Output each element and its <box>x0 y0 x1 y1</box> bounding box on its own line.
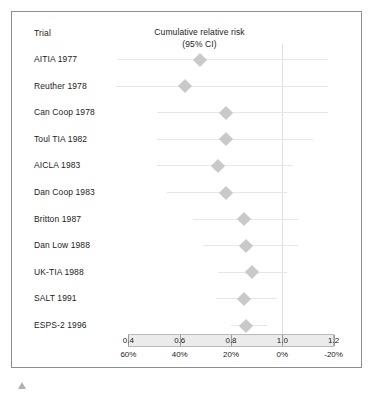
trial-label: Reuther 1978 <box>34 81 87 91</box>
x-axis-tick-label: 0.6 <box>174 336 185 345</box>
trial-label: Dan Low 1988 <box>34 240 90 250</box>
x-axis-tick-label: 0.8 <box>225 336 236 345</box>
point-estimate-marker <box>193 52 207 66</box>
plot-title-line1: Cumulative relative risk <box>107 27 292 39</box>
trial-label: Can Coop 1978 <box>34 107 95 117</box>
point-estimate-marker <box>239 318 253 332</box>
triangle-up-icon <box>18 382 26 389</box>
x-axis-tick-label: 1.2 <box>328 336 339 345</box>
plot-title: Cumulative relative risk (95% CI) <box>107 27 292 50</box>
point-estimate-marker <box>219 106 233 120</box>
x-axis-tick-label: 1.0 <box>277 336 288 345</box>
trial-label: SALT 1991 <box>34 293 77 303</box>
column-header-trial: Trial <box>34 28 51 38</box>
risk-reduction-tick-label: 40% <box>172 350 188 359</box>
trial-label: Toul TIA 1982 <box>34 134 87 144</box>
point-estimate-marker <box>239 239 253 253</box>
trial-label: AITIA 1977 <box>34 54 77 64</box>
trial-label: AICLA 1983 <box>34 160 80 170</box>
risk-reduction-tick-label: 20% <box>223 350 239 359</box>
confidence-interval-line <box>157 139 313 140</box>
reference-line <box>282 44 283 334</box>
trial-label: Britton 1987 <box>34 214 81 224</box>
point-estimate-marker <box>237 292 251 306</box>
plot-title-line2: (95% CI) <box>107 39 292 51</box>
point-estimate-marker <box>237 212 251 226</box>
x-axis-tick-label: 0.4 <box>123 336 134 345</box>
point-estimate-marker <box>219 185 233 199</box>
forest-plot-figure: Trial Cumulative relative risk (95% CI) … <box>11 11 362 368</box>
point-estimate-marker <box>211 159 225 173</box>
risk-reduction-tick-label: 60% <box>120 350 136 359</box>
trial-label: Dan Coop 1983 <box>34 187 95 197</box>
confidence-interval-line <box>116 86 329 87</box>
point-estimate-marker <box>178 79 192 93</box>
risk-reduction-tick-label: -20% <box>324 350 343 359</box>
confidence-interval-line <box>118 59 328 60</box>
point-estimate-marker <box>244 265 258 279</box>
trial-label: UK-TIA 1988 <box>34 267 84 277</box>
point-estimate-marker <box>219 132 233 146</box>
trial-label: ESPS-2 1996 <box>34 320 87 330</box>
risk-reduction-tick-label: 0% <box>277 350 289 359</box>
confidence-interval-line <box>157 112 329 113</box>
plot-area: Trial Cumulative relative risk (95% CI) … <box>12 12 361 367</box>
